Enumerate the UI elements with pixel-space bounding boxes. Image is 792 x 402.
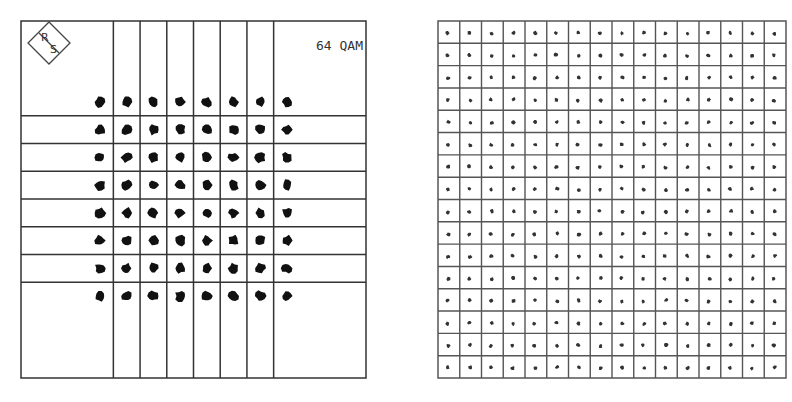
constellation-point: [772, 121, 776, 125]
constellation-point: [555, 187, 560, 191]
constellation-point: [729, 232, 733, 236]
constellation-point: [620, 366, 624, 370]
constellation-point: [255, 208, 264, 219]
constellation-64qam-panel: R S 64 QAM: [21, 21, 366, 378]
constellation-point: [467, 76, 471, 80]
constellation-point: [202, 125, 212, 134]
constellation-point: [445, 322, 449, 327]
constellation-point: [489, 365, 493, 369]
constellation-point: [729, 254, 733, 259]
constellation-point: [621, 210, 625, 214]
constellation-point: [728, 187, 732, 191]
constellation-point: [255, 263, 266, 274]
constellation-point: [685, 322, 689, 326]
constellation-point: [147, 291, 158, 301]
constellation-point: [555, 344, 559, 348]
constellation-point: [685, 366, 689, 371]
constellation-point: [95, 96, 106, 108]
constellation-point: [281, 264, 293, 274]
constellation-point: [598, 98, 603, 103]
constellation-point: [664, 32, 668, 36]
constellation-point: [148, 152, 158, 163]
constellation-point: [751, 277, 754, 281]
constellation-point: [201, 97, 212, 107]
constellation-point: [620, 98, 624, 102]
constellation-point: [685, 76, 688, 80]
constellation-point: [729, 31, 732, 35]
constellation-point: [642, 142, 646, 146]
constellation-point: [686, 277, 690, 281]
constellation-point: [750, 367, 754, 371]
constellation-point: [148, 235, 159, 245]
constellation-point: [489, 344, 493, 348]
constellation-point: [685, 232, 689, 236]
constellation-point: [619, 53, 623, 57]
constellation-point: [512, 299, 516, 303]
constellation-point: [707, 209, 711, 213]
constellation-point: [685, 54, 689, 58]
constellation-point: [490, 54, 494, 58]
constellation-point: [281, 125, 293, 135]
constellation-point: [641, 255, 645, 259]
constellation-point: [554, 254, 558, 258]
constellation-point: [641, 343, 644, 347]
constellation-point: [175, 263, 185, 274]
constellation-point: [446, 277, 450, 282]
constellation-point: [489, 97, 493, 101]
constellation-point: [577, 76, 581, 80]
constellation-point: [512, 97, 516, 102]
decision-grid: [438, 21, 786, 378]
constellation-point: [751, 32, 755, 36]
constellation-point: [533, 120, 537, 124]
constellation-point: [555, 76, 559, 80]
constellation-point: [95, 153, 104, 161]
constellation-point: [554, 31, 558, 35]
constellation-point: [149, 181, 159, 190]
constellation-point: [203, 263, 212, 274]
constellation-point: [598, 188, 602, 192]
constellation-point: [175, 235, 185, 247]
constellation-point: [686, 344, 689, 348]
constellation-point: [512, 209, 516, 213]
constellation-point: [510, 366, 514, 370]
constellation-point: [576, 321, 580, 325]
constellation-points: [445, 31, 777, 371]
constellation-point: [751, 143, 755, 147]
constellation-point: [490, 32, 494, 36]
constellation-point: [490, 187, 493, 191]
constellation-point: [577, 120, 581, 124]
constellation-point: [533, 143, 537, 146]
constellation-point: [533, 76, 537, 80]
constellation-point: [147, 208, 158, 219]
rs-logo-icon: R S: [28, 22, 70, 64]
constellation-point: [94, 181, 105, 191]
constellation-point: [663, 54, 667, 58]
constellation-point: [489, 232, 493, 236]
constellation-point: [663, 366, 667, 370]
constellation-point: [202, 291, 213, 301]
constellation-point: [751, 166, 755, 170]
constellation-point: [96, 291, 105, 302]
constellation-point: [512, 54, 516, 57]
constellation-point: [556, 231, 560, 235]
constellation-point: [467, 164, 471, 168]
constellation-point: [708, 277, 712, 281]
constellation-point: [642, 53, 646, 57]
constellation-point: [707, 76, 711, 80]
constellation-point: [446, 211, 450, 215]
constellation-point: [641, 211, 645, 215]
constellation-point: [532, 322, 536, 326]
constellation-point: [256, 97, 265, 108]
constellation-point: [620, 121, 625, 124]
constellation-point: [467, 210, 472, 214]
constellation-point: [282, 208, 292, 217]
constellation-point: [773, 209, 777, 213]
constellation-point: [255, 180, 266, 190]
constellation-point: [621, 232, 625, 236]
constellation-point: [772, 99, 776, 103]
constellation-point: [642, 31, 646, 35]
constellation-point: [283, 235, 293, 246]
constellation-point: [533, 53, 537, 57]
constellation-point: [708, 143, 712, 147]
constellation-point: [642, 322, 646, 326]
